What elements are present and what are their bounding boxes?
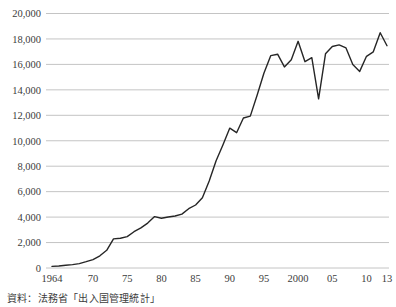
y-tick-label-2000: 2,000: [17, 237, 41, 248]
y-tick-label-8000: 8,000: [17, 161, 41, 172]
y-tick-label-10000: 10,000: [12, 136, 41, 147]
y-axis-labels: 02,0004,0006,0008,00010,00012,00014,0001…: [12, 8, 41, 274]
y-tick-label-18000: 18,000: [12, 34, 41, 45]
x-tick-label-1995: 95: [259, 273, 270, 284]
x-tick-label-2013: 13: [382, 273, 393, 284]
x-axis-labels: 19647075808590952000051013: [42, 273, 393, 284]
x-tick-label-1980: 80: [156, 273, 167, 284]
y-tick-label-0: 0: [36, 263, 41, 274]
y-tick-label-16000: 16,000: [12, 59, 41, 70]
y-tick-label-14000: 14,000: [12, 85, 41, 96]
data-series-line: [52, 33, 387, 267]
x-tick-label-2005: 05: [327, 273, 338, 284]
source-note: 資料：法務省「出入国管理統計」: [7, 290, 160, 305]
x-tick-label-1990: 90: [225, 273, 236, 284]
line-chart: 02,0004,0006,0008,00010,00012,00014,0001…: [0, 0, 396, 288]
x-tick-label-1970: 70: [88, 273, 99, 284]
x-tick-label-2010: 10: [361, 273, 372, 284]
x-tick-label-1985: 85: [190, 273, 201, 284]
y-tick-label-6000: 6,000: [17, 186, 41, 197]
y-tick-label-20000: 20,000: [12, 8, 41, 19]
x-tick-label-2000: 2000: [288, 273, 309, 284]
y-tick-label-4000: 4,000: [17, 212, 41, 223]
line-chart-svg: 02,0004,0006,0008,00010,00012,00014,0001…: [0, 0, 396, 288]
gridlines: [46, 14, 389, 269]
x-tick-label-1975: 75: [122, 273, 133, 284]
chart-page: 02,0004,0006,0008,00010,00012,00014,0001…: [0, 0, 396, 307]
x-tick-label-1964: 1964: [42, 273, 64, 284]
y-tick-label-12000: 12,000: [12, 110, 41, 121]
